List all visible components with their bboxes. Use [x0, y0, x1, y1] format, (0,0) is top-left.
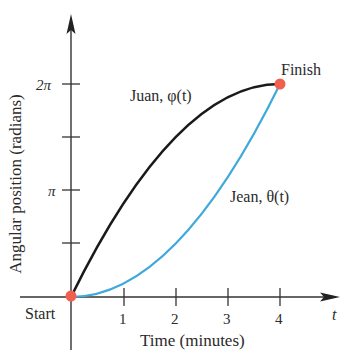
y-tick-2pi: 2π [36, 77, 52, 93]
jean-label: Jean, θ(t) [230, 188, 289, 206]
juan-label: Juan, φ(t) [130, 87, 192, 105]
start-point [66, 291, 77, 302]
x-tick-4: 4 [275, 311, 283, 327]
finish-label: Finish [281, 61, 321, 78]
x-axis-var: t [332, 306, 337, 323]
x-tick-2: 2 [171, 311, 179, 327]
y-axis-title: Angular position (radians) [6, 94, 25, 273]
finish-point [275, 79, 286, 90]
x-axis-title: Time (minutes) [140, 331, 245, 350]
y-tick-pi: π [48, 183, 56, 199]
start-label: Start [25, 305, 56, 322]
x-tick-3: 3 [223, 311, 231, 327]
chart: 2π π 1 2 3 4 t Start Finish Juan, φ(t) J… [0, 0, 342, 352]
x-tick-1: 1 [119, 311, 127, 327]
